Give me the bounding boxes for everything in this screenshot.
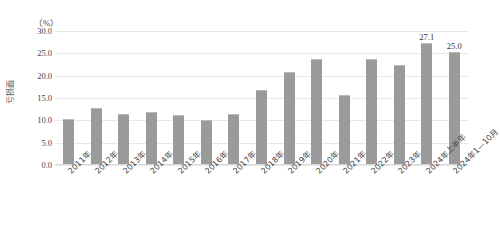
bar-slot [330,31,358,165]
bar [118,114,129,165]
bar-value-label: 25.0 [434,41,474,51]
bar [256,90,267,165]
y-axis-tick-label: 0.0 [6,160,52,170]
bar-slot [193,31,221,165]
y-axis-ticks: 30.025.020.015.010.05.00.0 [0,31,52,165]
y-axis-tick-label: 25.0 [6,48,52,58]
bar-slot [275,31,303,165]
bar [284,72,295,165]
plot-area: 27.125.0 [55,31,468,165]
bar [63,119,74,165]
bar [311,59,322,165]
y-axis-tick-label: 30.0 [6,26,52,36]
bar-series: 27.125.0 [55,31,468,165]
bar-slot [138,31,166,165]
bar-slot [165,31,193,165]
bar [228,114,239,165]
bar-slot [385,31,413,165]
y-axis-tick-label: 5.0 [6,138,52,148]
bar [394,65,405,165]
bar-slot [83,31,111,165]
bar [91,108,102,165]
y-axis-tick-label: 10.0 [6,115,52,125]
x-axis-labels: 2011年2012年2013年2014年2015年2016年2017年2018年… [55,168,468,246]
bar-slot [220,31,248,165]
bar-slot [110,31,138,165]
bar [421,43,432,165]
bar-slot [248,31,276,165]
bar-slot [55,31,83,165]
bar [146,112,157,165]
y-axis-tick-label: 15.0 [6,93,52,103]
bar-slot [358,31,386,165]
y-axis-tick-label: 20.0 [6,71,52,81]
bar [173,115,184,165]
bar [366,59,377,165]
bar-slot [303,31,331,165]
